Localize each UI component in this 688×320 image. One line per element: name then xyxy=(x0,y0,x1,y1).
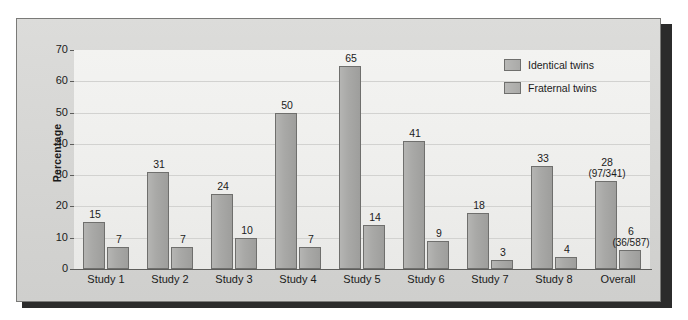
bar-value-label: 6(36/587) xyxy=(602,226,660,248)
bar-identical[interactable] xyxy=(467,213,489,269)
bar-value-label: 41 xyxy=(386,128,444,139)
bar-value-main: 3 xyxy=(500,246,506,258)
figure-frame: Percentage 010203040506070 1573172410507… xyxy=(16,18,661,302)
bar-fraternal[interactable] xyxy=(491,260,513,269)
legend-item-fraternal[interactable]: Fraternal twins xyxy=(504,78,632,97)
y-axis-tick-label: 50 xyxy=(42,106,68,118)
chart-legend: Identical twinsFraternal twins xyxy=(504,55,632,101)
y-axis-tick-label: 70 xyxy=(42,43,68,55)
bar-group: 2410 xyxy=(202,50,266,269)
legend-label: Fraternal twins xyxy=(528,82,597,94)
legend-swatch-fraternal xyxy=(504,82,521,94)
bar-value-main: 28 xyxy=(601,156,613,168)
bar-value-main: 15 xyxy=(89,208,101,220)
bar-value-main: 33 xyxy=(537,152,549,164)
bar-fraternal[interactable] xyxy=(299,247,321,269)
bar-value-main: 7 xyxy=(116,233,122,245)
bar-identical[interactable] xyxy=(275,113,297,269)
bar-fraternal[interactable] xyxy=(171,247,193,269)
bar-value-main: 9 xyxy=(436,227,442,239)
bar-fraternal[interactable] xyxy=(555,257,577,270)
bar-chart: Percentage 010203040506070 1573172410507… xyxy=(17,19,660,301)
x-axis-tick-label: Study 5 xyxy=(330,273,394,285)
bar-value-label: 28(97/341) xyxy=(578,157,636,179)
bar-value-sublabel: (97/341) xyxy=(578,168,636,179)
legend-item-identical[interactable]: Identical twins xyxy=(504,55,632,74)
x-axis-tick-label: Study 1 xyxy=(74,273,138,285)
x-axis-tick-label: Study 8 xyxy=(522,273,586,285)
bar-value-main: 4 xyxy=(564,243,570,255)
bar-value-main: 10 xyxy=(241,224,253,236)
bar-value-main: 24 xyxy=(217,180,229,192)
bar-fraternal[interactable] xyxy=(619,250,641,269)
bar-identical[interactable] xyxy=(595,181,617,269)
bar-identical[interactable] xyxy=(147,172,169,269)
y-axis-tick-label: 40 xyxy=(42,137,68,149)
bar-value-main: 7 xyxy=(308,233,314,245)
bar-group: 157 xyxy=(74,50,138,269)
bar-value-main: 65 xyxy=(345,52,357,64)
bar-identical[interactable] xyxy=(339,66,361,269)
bar-value-main: 7 xyxy=(180,233,186,245)
legend-label: Identical twins xyxy=(528,59,594,71)
bar-value-main: 6 xyxy=(628,225,634,237)
x-axis-tick-label: Study 6 xyxy=(394,273,458,285)
bar-value-main: 31 xyxy=(153,158,165,170)
bar-group: 507 xyxy=(266,50,330,269)
bar-value-sublabel: (36/587) xyxy=(602,237,660,248)
bar-identical[interactable] xyxy=(403,141,425,269)
x-axis-tick-label: Study 2 xyxy=(138,273,202,285)
bar-group: 317 xyxy=(138,50,202,269)
bar-value-main: 41 xyxy=(409,127,421,139)
bar-value-main: 50 xyxy=(281,99,293,111)
bar-value-label: 24 xyxy=(194,181,252,192)
bar-group: 419 xyxy=(394,50,458,269)
y-axis-tick-label: 30 xyxy=(42,168,68,180)
x-axis-tick-label: Study 4 xyxy=(266,273,330,285)
bar-identical[interactable] xyxy=(83,222,105,269)
x-axis-tick-label: Study 3 xyxy=(202,273,266,285)
legend-swatch-identical xyxy=(504,59,521,71)
bar-value-label: 15 xyxy=(66,209,124,220)
bar-fraternal[interactable] xyxy=(107,247,129,269)
bar-group: 6514 xyxy=(330,50,394,269)
bar-fraternal[interactable] xyxy=(235,238,257,269)
bar-value-main: 18 xyxy=(473,199,485,211)
bar-fraternal[interactable] xyxy=(427,241,449,269)
bar-value-main: 14 xyxy=(369,211,381,223)
bar-fraternal[interactable] xyxy=(363,225,385,269)
bar-value-label: 50 xyxy=(258,100,316,111)
x-axis-line xyxy=(74,269,652,270)
y-axis-tick-label: 10 xyxy=(42,231,68,243)
bar-value-label: 31 xyxy=(130,159,188,170)
x-axis-tick-label: Study 7 xyxy=(458,273,522,285)
x-axis-tick-label: Overall xyxy=(586,273,650,285)
bar-value-label: 65 xyxy=(322,53,380,64)
bar-value-label: 33 xyxy=(514,153,572,164)
bar-value-label: 18 xyxy=(450,200,508,211)
y-axis-tick-label: 20 xyxy=(42,199,68,211)
y-axis-tick-label: 60 xyxy=(42,74,68,86)
y-axis-tick-label: 0 xyxy=(42,262,68,274)
